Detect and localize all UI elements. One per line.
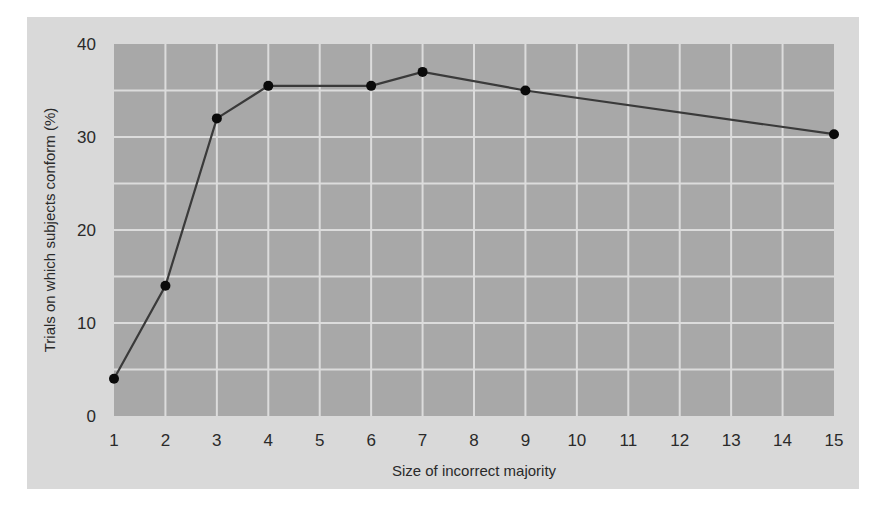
y-tick-label: 20 <box>77 221 96 240</box>
x-tick-label: 3 <box>212 431 221 450</box>
x-tick-label: 6 <box>366 431 375 450</box>
line-chart: 010203040 123456789101112131415 Size of … <box>0 0 884 517</box>
y-tick-label: 10 <box>77 314 96 333</box>
data-point <box>263 81 273 91</box>
x-tick-label: 5 <box>315 431 324 450</box>
x-tick-label: 7 <box>418 431 427 450</box>
x-tick-label: 4 <box>264 431 273 450</box>
data-point <box>366 81 376 91</box>
x-tick-label: 12 <box>670 431 689 450</box>
data-point <box>160 281 170 291</box>
x-tick-label: 15 <box>825 431 844 450</box>
y-tick-label: 30 <box>77 128 96 147</box>
x-axis-label: Size of incorrect majority <box>392 462 557 479</box>
x-tick-label: 2 <box>161 431 170 450</box>
y-axis-label: Trials on which subjects conform (%) <box>41 108 58 353</box>
x-tick-label: 14 <box>773 431 792 450</box>
data-point <box>829 129 839 139</box>
x-tick-label: 8 <box>469 431 478 450</box>
y-tick-label: 40 <box>77 35 96 54</box>
data-point <box>212 113 222 123</box>
x-tick-label: 10 <box>567 431 586 450</box>
x-axis-ticks: 123456789101112131415 <box>109 431 843 450</box>
x-tick-label: 13 <box>722 431 741 450</box>
data-point <box>520 86 530 96</box>
y-tick-label: 0 <box>87 407 96 426</box>
x-tick-label: 11 <box>619 431 637 450</box>
x-tick-label: 9 <box>521 431 530 450</box>
data-point <box>109 374 119 384</box>
data-point <box>418 67 428 77</box>
y-axis-ticks: 010203040 <box>77 35 96 426</box>
x-tick-label: 1 <box>109 431 118 450</box>
